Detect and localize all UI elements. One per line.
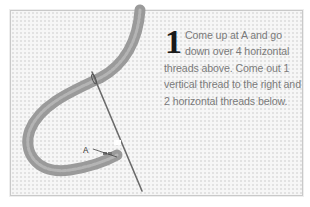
- needle-icon: [91, 72, 142, 191]
- step-number: 1: [165, 29, 182, 55]
- step-text: Come up at A and go down over 4 horizont…: [164, 29, 301, 107]
- point-a-label: A: [83, 146, 88, 156]
- step-instruction: 1 Come up at A and go down over 4 horizo…: [164, 27, 302, 109]
